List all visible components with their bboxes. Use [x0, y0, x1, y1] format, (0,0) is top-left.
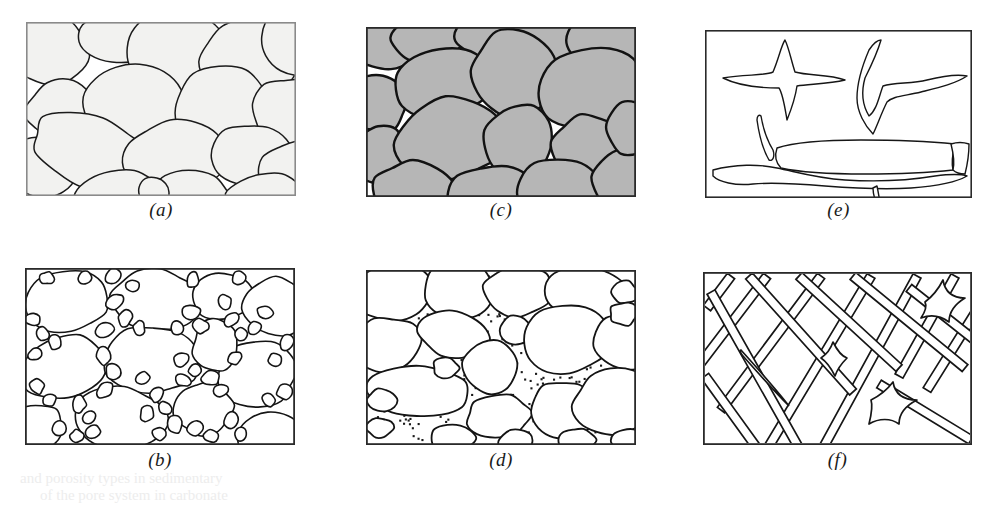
- matrix-stipple-dot: [530, 380, 532, 382]
- panel-b: (b): [25, 268, 295, 445]
- vug-outline: [951, 143, 969, 175]
- panel-d-caption: (d): [366, 449, 636, 471]
- matrix-stipple-dot: [445, 421, 447, 423]
- matrix-stipple-dot: [412, 427, 414, 429]
- matrix-stipple-dot: [569, 377, 571, 379]
- grain: [232, 271, 245, 285]
- grain: [140, 406, 153, 422]
- matrix-stipple-dot: [421, 439, 423, 441]
- grain: [126, 280, 140, 292]
- panel-f-caption: (f): [703, 449, 972, 471]
- matrix-stipple-dot: [409, 423, 411, 425]
- matrix-stipple-dot: [418, 317, 420, 319]
- grain: [218, 294, 231, 309]
- panel-c-caption: (c): [366, 199, 636, 221]
- matrix-stipple-dot: [490, 320, 492, 322]
- grain: [25, 313, 40, 325]
- matrix-stipple-dot: [499, 315, 501, 317]
- matrix-stipple-dot: [418, 438, 420, 440]
- panel-a-grain-group: [26, 22, 296, 196]
- matrix-stipple-dot: [403, 423, 405, 425]
- matrix-stipple-dot: [542, 377, 544, 379]
- panel-c: (c): [366, 27, 636, 197]
- grain: [171, 321, 183, 335]
- grain: [78, 271, 92, 284]
- panel-f: (f): [703, 272, 972, 445]
- panel-e: (e): [705, 30, 972, 198]
- matrix-stipple-dot: [447, 419, 449, 421]
- matrix-stipple-dot: [418, 423, 420, 425]
- matrix-stipple-dot: [413, 435, 415, 437]
- matrix-stipple-dot: [405, 418, 407, 420]
- matrix-stipple-dot: [399, 420, 401, 422]
- grain: [276, 384, 292, 400]
- matrix-stipple-dot: [524, 379, 526, 381]
- grain: [85, 425, 100, 438]
- grain: [106, 364, 121, 380]
- bleed-line-1: and porosity types in sedimentary: [20, 470, 222, 487]
- matrix-stipple-dot: [471, 394, 473, 396]
- grain: [52, 421, 66, 436]
- grain: [235, 427, 247, 441]
- panel-a: (a): [26, 22, 296, 196]
- grain: [43, 394, 56, 406]
- matrix-stipple-dot: [553, 379, 555, 381]
- bleed-line-2: of the pore system in carbonate: [40, 487, 228, 504]
- panel-c-drawing: [366, 27, 636, 197]
- matrix-stipple-dot: [590, 367, 592, 369]
- panel-b-drawing: [25, 268, 295, 445]
- matrix-stipple-dot: [586, 368, 588, 370]
- matrix-stipple-dot: [528, 403, 530, 405]
- matrix-stipple-dot: [409, 418, 411, 420]
- matrix-stipple-dot: [541, 378, 543, 380]
- panel-e-drawing: [705, 30, 972, 198]
- matrix-stipple-dot: [487, 314, 489, 316]
- grain: [203, 429, 218, 442]
- panel-d: (d): [366, 270, 636, 445]
- grain: [610, 303, 636, 326]
- matrix-stipple-dot: [559, 377, 561, 379]
- matrix-stipple-dot: [537, 384, 539, 386]
- grain: [83, 411, 96, 424]
- matrix-stipple-dot: [520, 352, 522, 354]
- grain: [187, 272, 199, 287]
- grain: [49, 335, 61, 350]
- matrix-stipple-dot: [578, 381, 580, 383]
- matrix-stipple-dot: [584, 378, 586, 380]
- panel-a-drawing: [26, 22, 296, 196]
- vug-outline: [776, 140, 955, 174]
- panel-e-caption: (e): [705, 199, 972, 221]
- matrix-stipple-dot: [440, 416, 442, 418]
- matrix-stipple-dot: [408, 420, 410, 422]
- grain: [257, 306, 273, 318]
- panel-b-caption: (b): [25, 449, 295, 471]
- matrix-stipple-dot: [530, 387, 532, 389]
- matrix-stipple-dot: [521, 371, 523, 373]
- grain: [235, 328, 248, 341]
- grain: [167, 415, 182, 433]
- grain: [425, 270, 494, 318]
- panel-a-caption: (a): [26, 199, 296, 221]
- grain: [39, 272, 54, 284]
- matrix-stipple-dot: [575, 381, 577, 383]
- panel-d-drawing: [366, 270, 636, 445]
- panel-f-drawing: [703, 272, 972, 445]
- figure-root: (a) (b) (c) (d): [0, 0, 992, 505]
- matrix-stipple-dot: [498, 313, 500, 315]
- matrix-stipple-dot: [535, 373, 537, 375]
- matrix-stipple-dot: [571, 376, 573, 378]
- grain: [268, 353, 281, 366]
- matrix-stipple-dot: [600, 365, 602, 367]
- matrix-stipple-dot: [497, 315, 499, 317]
